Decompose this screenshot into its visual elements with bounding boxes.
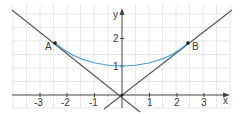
y-axis	[120, 8, 125, 108]
point-b-marker	[186, 41, 190, 45]
x-tick-label: 2	[174, 97, 180, 108]
y-tick-label: 2	[113, 33, 119, 44]
origin-marker	[121, 94, 124, 97]
x-tick-label: -2	[61, 97, 70, 108]
y-tick-label: 1	[113, 61, 119, 72]
point-b-label: B	[192, 41, 199, 52]
x-tick-label: 1	[147, 97, 153, 108]
x-tick-label: 3	[201, 97, 207, 108]
point-a-label: A	[45, 41, 52, 52]
x-tick-label: -1	[89, 97, 98, 108]
y-axis-label: y	[113, 9, 118, 20]
chart: A B x y -3 -2 -1 1 2 3 1 2	[0, 0, 245, 114]
x-axis-label: x	[223, 95, 228, 106]
point-a-marker	[53, 41, 57, 45]
x-tick-label: -3	[34, 97, 43, 108]
